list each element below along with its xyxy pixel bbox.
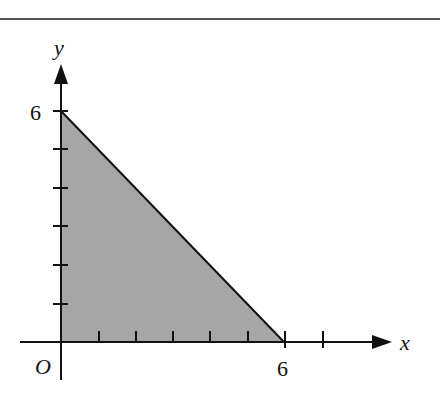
x-axis-label: x (399, 330, 410, 355)
chart-figure: y x O 6 6 (0, 0, 440, 396)
y-axis-label: y (52, 35, 64, 60)
x-tick-label-6: 6 (277, 356, 288, 381)
y-axis-arrow-icon (54, 64, 68, 84)
origin-label: O (35, 354, 51, 379)
x-axis-arrow-icon (372, 335, 392, 349)
y-tick-label-6: 6 (30, 100, 41, 125)
